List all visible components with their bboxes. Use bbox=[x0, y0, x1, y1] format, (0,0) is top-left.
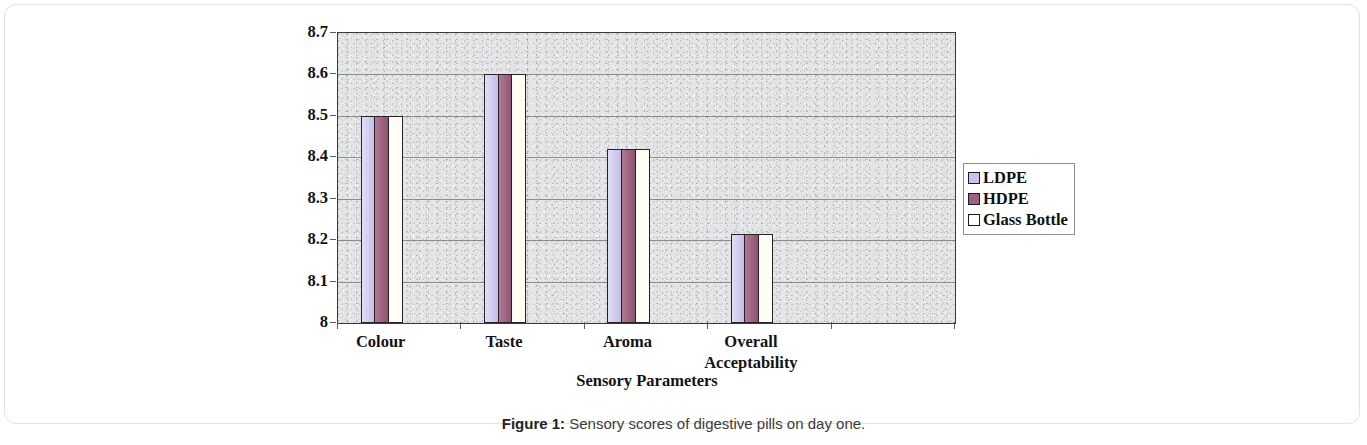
x-axis-tick-mark bbox=[460, 322, 461, 329]
x-axis-tick-mark bbox=[337, 322, 338, 329]
x-axis-tick-mark bbox=[707, 322, 708, 329]
y-axis-tick-mark bbox=[330, 115, 336, 116]
gridline bbox=[338, 74, 955, 75]
y-axis-tick-label: 8.5 bbox=[284, 105, 328, 125]
y-axis-tick-label: 8.2 bbox=[284, 229, 328, 249]
legend-swatch-icon bbox=[968, 214, 980, 226]
gridline bbox=[338, 116, 955, 117]
figure-caption-label: Figure 1: bbox=[502, 415, 565, 432]
legend-label: LDPE bbox=[983, 169, 1027, 186]
y-axis-tick-label: 8.3 bbox=[284, 188, 328, 208]
legend-entry: HDPE bbox=[968, 188, 1068, 209]
x-axis-tick-mark bbox=[831, 322, 832, 329]
y-axis-tick-label: 8.1 bbox=[284, 271, 328, 291]
y-axis-tick-mark bbox=[330, 156, 336, 157]
figure-sensory-scores: Sensory Scores 88.18.28.38.48.58.68.7 Co… bbox=[0, 0, 1367, 445]
x-axis-tick-mark bbox=[584, 322, 585, 329]
bar-group bbox=[361, 116, 402, 323]
y-axis-tick-label: 8 bbox=[284, 312, 328, 332]
y-axis-tick-mark bbox=[330, 73, 336, 74]
chart-legend: LDPEHDPEGlass Bottle bbox=[963, 163, 1075, 235]
legend-entry: Glass Bottle bbox=[968, 209, 1068, 230]
bar-group bbox=[731, 234, 772, 323]
bar-group bbox=[484, 74, 525, 323]
x-axis-title: Sensory Parameters bbox=[337, 371, 957, 391]
bar-glass-bottle bbox=[758, 234, 773, 323]
legend-label: Glass Bottle bbox=[983, 211, 1068, 228]
legend-swatch-icon bbox=[968, 193, 980, 205]
plot-area bbox=[337, 32, 956, 324]
y-axis-tick-label: 8.7 bbox=[284, 22, 328, 42]
y-axis-tick-mark bbox=[330, 32, 336, 33]
x-axis-tick-label: OverallAcceptability bbox=[661, 331, 841, 373]
legend-entry: LDPE bbox=[968, 167, 1068, 188]
y-axis-tick-mark bbox=[330, 239, 336, 240]
y-axis-tick-mark bbox=[330, 198, 336, 199]
bar-group bbox=[607, 149, 648, 323]
figure-caption-text: Sensory scores of digestive pills on day… bbox=[565, 415, 865, 432]
legend-swatch-icon bbox=[968, 172, 980, 184]
y-axis-tick-mark bbox=[330, 322, 336, 323]
y-axis-tick-label: 8.6 bbox=[284, 63, 328, 83]
bar-glass-bottle bbox=[511, 74, 526, 323]
figure-caption: Figure 1: Sensory scores of digestive pi… bbox=[0, 415, 1367, 432]
y-axis-tick-labels: 88.18.28.38.48.58.68.7 bbox=[290, 32, 336, 322]
legend-label: HDPE bbox=[983, 190, 1029, 207]
y-axis-tick-mark bbox=[330, 281, 336, 282]
bar-glass-bottle bbox=[388, 116, 403, 323]
bar-glass-bottle bbox=[635, 149, 650, 323]
y-axis-tick-label: 8.4 bbox=[284, 146, 328, 166]
x-axis-tick-mark bbox=[954, 322, 955, 329]
